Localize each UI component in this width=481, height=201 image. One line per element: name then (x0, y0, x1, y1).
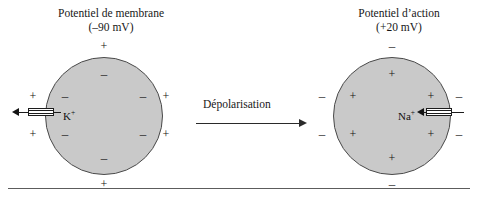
charge-outside-upper-left-resting: + (26, 90, 40, 102)
charge-inside-upper-left-action: + (346, 90, 360, 102)
charge-inside-bottom-resting: – (97, 152, 111, 164)
charge-inside-upper-right-action: + (424, 90, 438, 102)
charge-outside-top-action: – (385, 40, 399, 52)
potassium-ion-symbol: K (63, 110, 71, 122)
sodium-ion-label: Na+ (398, 107, 415, 122)
charge-inside-lower-left-action: + (346, 128, 360, 140)
charge-outside-lower-left-resting: + (26, 128, 40, 140)
charge-outside-top-resting: + (97, 40, 111, 52)
potassium-channel-pore (28, 108, 54, 116)
panel-title-action-line1: Potentiel d’action (329, 7, 469, 21)
panel-title-resting-line1: Potentiel de membrane (32, 7, 190, 21)
charge-outside-lower-right-action: – (452, 128, 466, 140)
transition-label: Dépolarisation (203, 98, 271, 110)
charge-inside-lower-left-resting: – (58, 128, 72, 140)
panel-title-action: Potentiel d’action (+20 mV) (329, 7, 469, 34)
charge-inside-upper-right-resting: – (136, 90, 150, 102)
charge-inside-upper-left-resting: – (58, 90, 72, 102)
sodium-ion-symbol: Na (398, 110, 411, 122)
charge-inside-bottom-action: + (385, 152, 399, 164)
charge-outside-upper-left-action: – (315, 90, 329, 102)
charge-inside-lower-right-resting: – (136, 128, 150, 140)
panel-title-action-line2: (+20 mV) (329, 21, 469, 35)
sodium-ion-charge: + (411, 108, 415, 117)
potassium-channel-tail-left (18, 112, 28, 113)
charge-inside-top-action: + (385, 68, 399, 80)
panel-title-resting: Potentiel de membrane (–90 mV) (32, 7, 190, 34)
potassium-channel-tail-right (54, 112, 61, 113)
charge-inside-lower-right-action: + (424, 128, 438, 140)
charge-inside-top-resting: – (97, 68, 111, 80)
transition-arrowhead (299, 119, 307, 127)
figure-canvas: Potentiel de membrane (–90 mV) + + + + +… (0, 0, 481, 201)
potassium-ion-label: K+ (63, 107, 75, 122)
potassium-ion-charge: + (71, 108, 75, 117)
charge-outside-lower-left-action: – (315, 128, 329, 140)
baseline-rule (8, 188, 470, 189)
panel-title-resting-line2: (–90 mV) (32, 21, 190, 35)
charge-outside-upper-right-action: – (452, 90, 466, 102)
sodium-channel-pore (426, 108, 452, 116)
transition-arrow-line (196, 123, 300, 124)
sodium-channel-tail-right (452, 112, 464, 113)
